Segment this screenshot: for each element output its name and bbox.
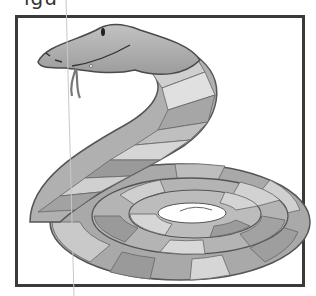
snake-illustration	[0, 0, 316, 296]
eye-icon	[101, 28, 105, 36]
snake-inner-coil	[129, 190, 261, 238]
tongue	[71, 68, 80, 98]
